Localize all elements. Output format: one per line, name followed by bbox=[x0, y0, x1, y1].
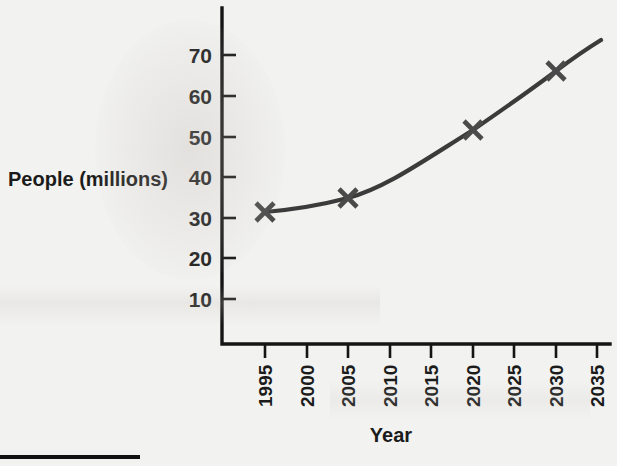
x-tick-label-2000: 2000 bbox=[297, 365, 318, 407]
x-tick-label-2015: 2015 bbox=[421, 364, 442, 407]
footer-rule bbox=[0, 455, 140, 459]
x-axis-ticks bbox=[265, 344, 597, 358]
x-tick-label-2005: 2005 bbox=[338, 364, 359, 407]
y-tick-label-40: 40 bbox=[189, 166, 212, 189]
y-tick-label-10: 10 bbox=[189, 288, 212, 311]
y-axis-ticks bbox=[222, 55, 236, 299]
x-tick-label-2030: 2030 bbox=[546, 365, 567, 407]
x-tick-label-2025: 2025 bbox=[504, 364, 525, 407]
y-tick-label-70: 70 bbox=[189, 44, 212, 67]
axis-lines bbox=[222, 8, 610, 344]
x-axis-tick-labels: 1995 2000 2005 2010 2015 2020 2025 2030 … bbox=[255, 364, 608, 407]
y-tick-label-30: 30 bbox=[189, 207, 212, 230]
x-axis-title: Year bbox=[370, 424, 412, 446]
chart-figure: 70 60 50 40 30 20 10 People (millions) 1… bbox=[0, 0, 617, 466]
line-chart: 70 60 50 40 30 20 10 People (millions) 1… bbox=[0, 0, 617, 466]
y-axis-title: People (millions) bbox=[8, 168, 168, 190]
y-tick-label-20: 20 bbox=[189, 247, 212, 270]
axes-group bbox=[222, 8, 610, 344]
x-tick-label-2035: 2035 bbox=[587, 364, 608, 407]
data-point-2030 bbox=[547, 62, 565, 80]
x-tick-label-2010: 2010 bbox=[380, 365, 401, 407]
y-tick-label-60: 60 bbox=[189, 85, 212, 108]
y-axis-tick-labels: 70 60 50 40 30 20 10 bbox=[189, 44, 212, 311]
data-point-markers bbox=[256, 62, 565, 221]
y-tick-label-50: 50 bbox=[189, 126, 212, 149]
x-tick-label-2020: 2020 bbox=[463, 365, 484, 407]
data-point-2020 bbox=[464, 121, 482, 139]
x-tick-label-1995: 1995 bbox=[255, 364, 276, 407]
